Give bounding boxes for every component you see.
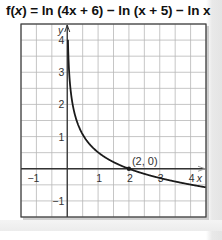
- x-axis-label: x: [196, 172, 203, 184]
- x-tick-label: 1: [96, 172, 102, 184]
- y-tick-label: 1: [58, 131, 64, 143]
- point-label: (2, 0): [132, 155, 158, 167]
- y-axis-label: y: [57, 24, 64, 36]
- x-tick-label: 4: [189, 172, 195, 184]
- point-marker: [127, 167, 131, 171]
- x-tick-label: 2: [127, 172, 133, 184]
- y-tick-label: −1: [52, 195, 64, 207]
- y-tick-label: 3: [58, 66, 64, 78]
- plot-area: −11234−11234yx (2, 0): [0, 0, 222, 231]
- y-tick-label: 2: [58, 98, 64, 110]
- x-tick-label: −1: [27, 172, 39, 184]
